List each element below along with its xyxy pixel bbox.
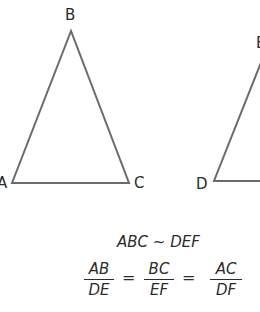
triangle-def	[214, 60, 260, 181]
equals-sign-2: =	[182, 270, 195, 286]
ratio-ac-df: AC DF	[210, 260, 242, 299]
fraction-bar	[84, 279, 114, 280]
ratio-denominator: DF	[210, 281, 242, 299]
vertex-label-e: E	[256, 36, 260, 51]
fraction-bar	[144, 279, 174, 280]
ratio-denominator: EF	[144, 281, 174, 299]
vertex-label-a: A	[0, 176, 7, 191]
equals-sign-1: =	[122, 270, 135, 286]
vertex-label-d: D	[196, 177, 208, 192]
vertex-label-b: B	[65, 8, 75, 23]
fraction-bar	[210, 279, 242, 280]
ratio-numerator: BC	[144, 260, 174, 278]
ratio-bc-ef: BC EF	[144, 260, 174, 299]
ratio-numerator: AB	[84, 260, 114, 278]
similarity-statement: ABC ~ DEF	[117, 235, 200, 250]
ratio-numerator: AC	[210, 260, 242, 278]
ratio-ab-de: AB DE	[84, 260, 114, 299]
ratio-denominator: DE	[84, 281, 114, 299]
vertex-label-c: C	[134, 176, 144, 191]
triangle-abc	[12, 31, 129, 183]
